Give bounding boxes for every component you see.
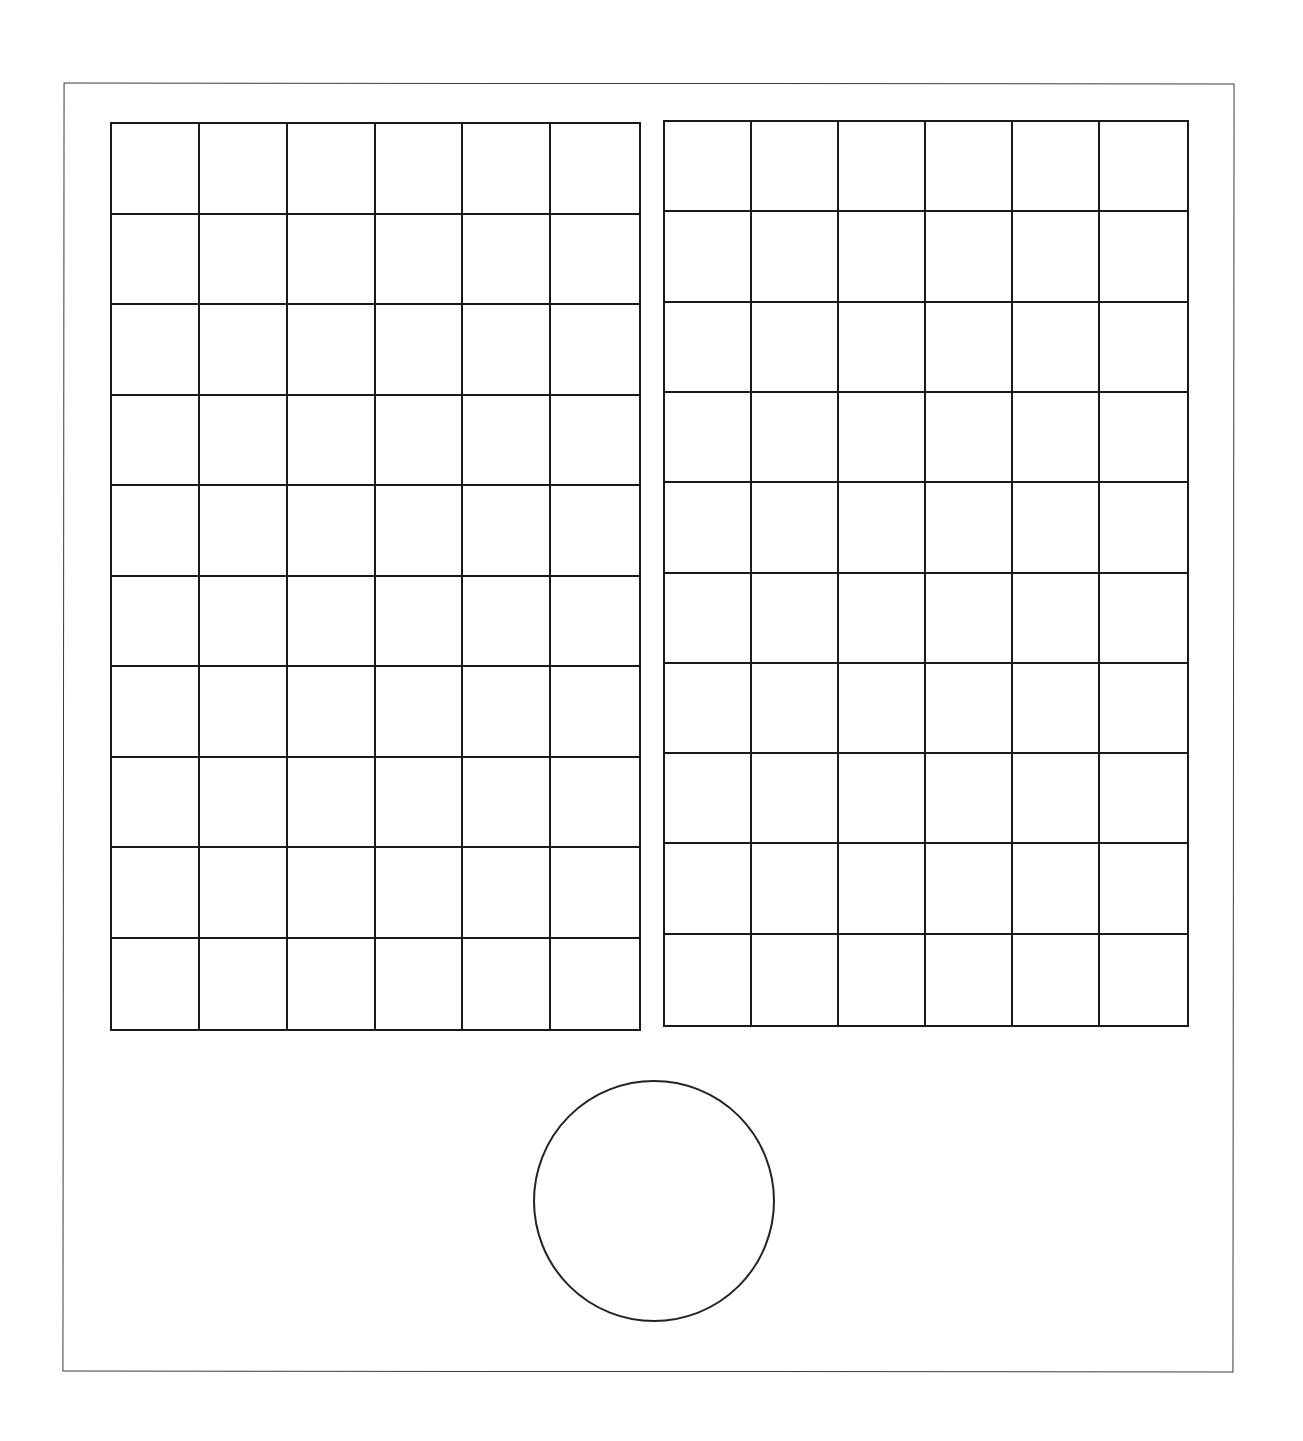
grid-cell: [926, 303, 1013, 393]
grid-cell: [288, 396, 376, 487]
grid-cell: [200, 577, 288, 668]
grid-cell: [839, 303, 926, 393]
grid-cell: [665, 574, 752, 664]
grid-cell: [752, 754, 839, 844]
grid-cell: [926, 212, 1013, 302]
grid-cell: [112, 758, 200, 849]
grid-cell: [551, 667, 639, 758]
grid-cell: [839, 574, 926, 664]
grid-cell: [200, 396, 288, 487]
grid-cell: [1013, 754, 1100, 844]
grid-cell: [1013, 122, 1100, 212]
grid-cell: [1013, 393, 1100, 483]
grid-cell: [288, 667, 376, 758]
grid-cell: [665, 483, 752, 573]
grid-cell: [463, 848, 551, 939]
grid-cell: [551, 305, 639, 396]
grid-cell: [1100, 122, 1187, 212]
grid-cell: [752, 844, 839, 934]
grid-cell: [463, 758, 551, 849]
grid-cell: [112, 577, 200, 668]
grid-cell: [112, 396, 200, 487]
grid-cell: [200, 758, 288, 849]
grid-cell: [665, 935, 752, 1025]
grid-cell: [926, 935, 1013, 1025]
grid-cell: [752, 303, 839, 393]
grid-cell: [1013, 303, 1100, 393]
grid-cell: [1100, 935, 1187, 1025]
grid-cell: [288, 124, 376, 215]
grid-cell: [551, 848, 639, 939]
grid-cell: [376, 667, 464, 758]
grid-cell: [926, 483, 1013, 573]
grid-cell: [551, 939, 639, 1030]
grid-cell: [839, 935, 926, 1025]
grid-cell: [926, 844, 1013, 934]
grid-cell: [112, 215, 200, 306]
grid-cell: [752, 212, 839, 302]
grid-cell: [463, 215, 551, 306]
grid-cell: [665, 393, 752, 483]
grid-cell: [376, 577, 464, 668]
grid-cell: [200, 848, 288, 939]
grid-cell: [288, 215, 376, 306]
grid-cell: [752, 935, 839, 1025]
grid-cell: [551, 577, 639, 668]
grid-cell: [112, 939, 200, 1030]
grid-cell: [1100, 212, 1187, 302]
grid-cell: [463, 396, 551, 487]
grid-cell: [1013, 844, 1100, 934]
grid-cell: [551, 486, 639, 577]
grid-cell: [200, 486, 288, 577]
grid-cell: [376, 758, 464, 849]
grid-cell: [1100, 754, 1187, 844]
grid-cell: [551, 215, 639, 306]
grid-cell: [463, 124, 551, 215]
grid-cell: [1013, 935, 1100, 1025]
grid-cell: [200, 667, 288, 758]
grid-cell: [1013, 483, 1100, 573]
grid-cell: [665, 754, 752, 844]
grid-cell: [112, 667, 200, 758]
grid-cell: [1100, 393, 1187, 483]
grid-cell: [665, 122, 752, 212]
grid-cell: [288, 305, 376, 396]
grid-cell: [463, 486, 551, 577]
grid-cell: [1100, 664, 1187, 754]
grid-cell: [288, 848, 376, 939]
grid-cell: [376, 939, 464, 1030]
grid-cell: [665, 844, 752, 934]
grid-cell: [665, 212, 752, 302]
grid-cell: [200, 305, 288, 396]
grid-cell: [839, 844, 926, 934]
grid-cell: [752, 122, 839, 212]
grid-cell: [288, 486, 376, 577]
grid-cell: [1100, 844, 1187, 934]
grid-cell: [376, 305, 464, 396]
grid-cell: [376, 486, 464, 577]
left-grid: [110, 122, 641, 1031]
grid-cell: [752, 664, 839, 754]
grid-cell: [463, 305, 551, 396]
grid-cell: [551, 758, 639, 849]
grid-cell: [200, 124, 288, 215]
grid-cell: [200, 215, 288, 306]
grid-cell: [839, 393, 926, 483]
right-grid: [663, 120, 1189, 1027]
grid-cell: [926, 574, 1013, 664]
grid-cell: [1013, 574, 1100, 664]
grid-cell: [200, 939, 288, 1030]
grid-cell: [376, 124, 464, 215]
grid-cell: [376, 848, 464, 939]
grid-cell: [112, 848, 200, 939]
grid-cell: [752, 483, 839, 573]
grid-cell: [551, 124, 639, 215]
grid-cell: [839, 754, 926, 844]
grid-cell: [839, 122, 926, 212]
grid-cell: [1013, 212, 1100, 302]
grid-cell: [839, 212, 926, 302]
grid-cell: [376, 215, 464, 306]
grid-cell: [665, 303, 752, 393]
grid-cell: [288, 577, 376, 668]
grid-cell: [1100, 483, 1187, 573]
